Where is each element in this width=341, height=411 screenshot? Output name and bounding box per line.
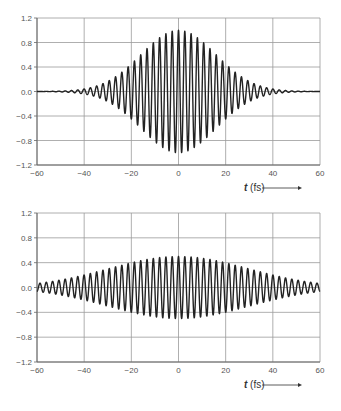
y-tick-label: 0.8 (21, 39, 33, 48)
bottom-plot-long-pulse: −60−40−2002040601.20.80.40.0−0.4−0.8−1.2… (16, 209, 325, 390)
x-tick-label: 60 (316, 169, 325, 178)
x-tick-label: 20 (221, 169, 230, 178)
y-tick-label: −0.8 (16, 137, 32, 146)
x-tick-label: −60 (30, 169, 44, 178)
y-tick-label: −1.2 (16, 358, 32, 367)
arrowhead-icon (298, 383, 302, 387)
y-tick-label: −0.4 (16, 308, 32, 317)
y-tick-label: 0.4 (21, 259, 33, 268)
y-tick-label: −0.8 (16, 333, 32, 342)
x-tick-label: 0 (176, 169, 181, 178)
pulse-charts: −60−40−2002040601.20.80.40.0−0.4−0.8−1.2… (0, 0, 341, 411)
arrowhead-icon (298, 186, 302, 190)
y-tick-label: 1.2 (21, 209, 33, 218)
x-axis-label: t (fs) (244, 182, 265, 193)
x-tick-label: −20 (125, 366, 139, 375)
x-tick-label: −40 (77, 169, 91, 178)
y-tick-label: 1.2 (21, 14, 33, 23)
x-tick-label: 0 (176, 366, 181, 375)
x-tick-label: 40 (268, 366, 277, 375)
x-tick-label: −40 (77, 366, 91, 375)
y-tick-label: 0.8 (21, 234, 33, 243)
top-plot-short-pulse: −60−40−2002040601.20.80.40.0−0.4−0.8−1.2… (16, 14, 325, 193)
x-tick-label: −20 (125, 169, 139, 178)
x-tick-label: 40 (268, 169, 277, 178)
y-tick-label: 0.0 (21, 88, 33, 97)
x-tick-label: 20 (221, 366, 230, 375)
x-tick-label: −60 (30, 366, 44, 375)
y-tick-label: −0.4 (16, 112, 32, 121)
y-tick-label: 0.4 (21, 63, 33, 72)
y-tick-label: −1.2 (16, 161, 32, 170)
x-tick-label: 60 (316, 366, 325, 375)
x-axis-label: t (fs) (244, 379, 265, 390)
y-tick-label: 0.0 (21, 284, 33, 293)
